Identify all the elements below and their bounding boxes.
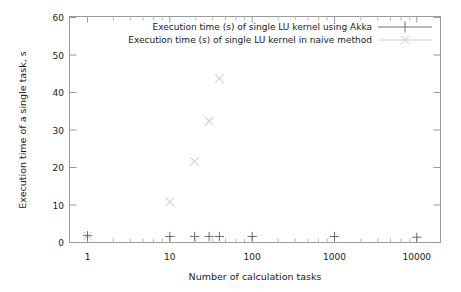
x-axis-title: Number of calculation tasks	[189, 271, 322, 282]
x-tick-label-1: 1	[85, 252, 91, 262]
y-axis-title: Execution time of a single task, s	[17, 51, 28, 208]
scatter-plot-canvas: 0 10 20 30 40 50 60	[0, 0, 461, 292]
x-tick-label-10000: 10000	[402, 252, 431, 262]
y-tick-label-60: 60	[53, 13, 65, 23]
y-tick-label-10: 10	[53, 201, 65, 211]
chart-figure: 0 10 20 30 40 50 60	[0, 0, 461, 292]
legend-label-naive: Execution time (s) of single LU kernel i…	[128, 35, 372, 45]
x-tick-label-10: 10	[164, 252, 176, 262]
x-tick-label-1000: 1000	[323, 252, 346, 262]
y-tick-label-20: 20	[53, 163, 65, 173]
y-tick-label-40: 40	[53, 88, 65, 98]
y-tick-label-30: 30	[53, 126, 65, 136]
y-tick-label-0: 0	[58, 238, 64, 248]
x-tick-label-100: 100	[244, 252, 261, 262]
y-tick-label-50: 50	[53, 51, 65, 61]
legend-label-akka: Execution time (s) of single LU kernel u…	[152, 22, 372, 32]
